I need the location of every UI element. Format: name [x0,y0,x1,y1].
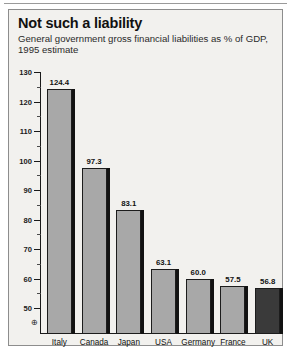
bar-germany[interactable] [186,279,211,335]
chart-title: Not such a liability [18,15,142,31]
category-label-italy: Italy [52,338,67,347]
bar-uk[interactable] [255,288,280,334]
bar-column[interactable]: 63.1 [151,72,176,334]
chart-figure: Not such a liability General government … [0,0,291,360]
bar-value-label: 56.8 [260,277,275,286]
category-label-uk: UK [262,338,273,347]
bar-canada[interactable] [82,168,107,334]
bar-column[interactable]: 56.8 [255,72,280,334]
bar-italy[interactable] [47,89,72,334]
bar-series: 124.497.383.163.160.057.556.8 [40,72,283,334]
bar-column[interactable]: 97.3 [82,72,107,334]
top-rule [4,3,287,4]
chart-subtitle: General government gross financial liabi… [18,33,276,56]
bar-value-label: 57.5 [225,275,240,284]
plot-area: 1301201101009080706050⊕ 124.497.383.163.… [40,72,283,334]
bar-column[interactable]: 124.4 [47,72,72,334]
y-tick-label: 50 [24,304,32,313]
bar-japan[interactable] [116,210,141,334]
y-tick-label: 60 [24,274,32,283]
bar-value-label: 83.1 [121,199,136,208]
bar-value-label: 124.4 [50,78,70,87]
category-label-canada: Canada [80,338,109,347]
bar-usa[interactable] [151,269,176,334]
category-label-usa: USA [155,338,172,347]
y-axis-break-icon: ⊕ [31,318,38,327]
bar-value-label: 63.1 [156,258,171,267]
y-tick-label: 90 [24,186,32,195]
bar-column[interactable]: 83.1 [116,72,141,334]
y-tick-label: 130 [19,68,32,77]
category-label-germany: Germany [181,338,215,347]
chart-frame: Not such a liability General government … [8,9,283,346]
bar-value-label: 97.3 [86,157,101,166]
bar-france[interactable] [220,286,245,334]
category-label-france: France [220,338,245,347]
y-tick-label: 110 [20,127,32,136]
y-tick-label: 70 [24,245,32,254]
bar-value-label: 60.0 [191,268,206,277]
bar-column[interactable]: 57.5 [220,72,245,334]
category-label-japan: Japan [118,338,140,347]
y-tick-label: 120 [19,97,32,106]
bar-column[interactable]: 60.0 [186,72,211,334]
y-tick-label: 100 [19,156,32,165]
y-tick-label: 80 [24,215,32,224]
